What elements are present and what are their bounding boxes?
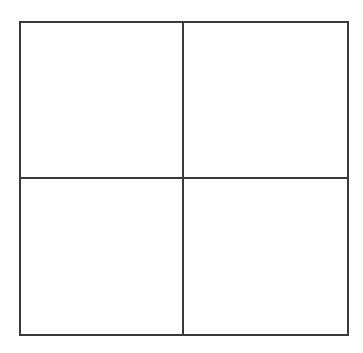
two-by-two-grid xyxy=(19,21,349,336)
grid-cell-bottom-left xyxy=(21,179,184,334)
grid-cell-top-left xyxy=(21,23,184,179)
grid-cell-top-right xyxy=(184,23,347,179)
grid-cell-bottom-right xyxy=(184,179,347,334)
